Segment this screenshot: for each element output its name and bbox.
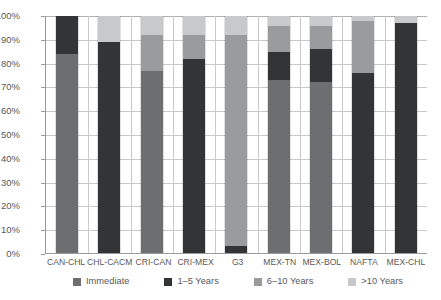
bar-slot bbox=[173, 16, 215, 253]
y-axis-tick-label: 10% bbox=[0, 225, 20, 235]
stacked-bar[interactable] bbox=[55, 16, 79, 253]
legend-label: >10 Years bbox=[361, 277, 403, 286]
bar-slot bbox=[215, 16, 257, 253]
bar-slot bbox=[46, 16, 88, 253]
legend-item[interactable]: Immediate bbox=[73, 277, 129, 286]
bar-segment[interactable] bbox=[268, 52, 290, 80]
bar-segment[interactable] bbox=[310, 26, 332, 50]
y-axis-tick-mark bbox=[41, 254, 45, 255]
legend-swatch-icon bbox=[73, 278, 81, 286]
bar-segment[interactable] bbox=[225, 16, 247, 35]
legend-swatch-icon bbox=[254, 278, 262, 286]
stacked-bar[interactable] bbox=[351, 16, 375, 253]
bar-segment[interactable] bbox=[183, 35, 205, 59]
bar-segment[interactable] bbox=[98, 42, 120, 253]
stacked-bar[interactable] bbox=[182, 16, 206, 253]
bar-segment[interactable] bbox=[268, 26, 290, 52]
x-axis-tick-label: MEX-TN bbox=[259, 257, 301, 267]
bar-segment[interactable] bbox=[141, 16, 163, 35]
legend-swatch-icon bbox=[164, 278, 172, 286]
legend-item[interactable]: 6–10 Years bbox=[254, 277, 314, 286]
bar-segment[interactable] bbox=[352, 21, 374, 73]
y-axis-tick-label: 60% bbox=[0, 106, 20, 116]
x-axis-tick-label: MEX-BOL bbox=[301, 257, 343, 267]
bar-segment[interactable] bbox=[310, 16, 332, 25]
bar-slot bbox=[385, 16, 427, 253]
y-axis-tick-label: 20% bbox=[0, 201, 20, 211]
bar-segment[interactable] bbox=[268, 16, 290, 25]
y-axis-tick-label: 30% bbox=[0, 178, 20, 188]
bar-segment[interactable] bbox=[183, 59, 205, 253]
chart-legend: Immediate1–5 Years6–10 Years>10 Years bbox=[45, 277, 427, 286]
legend-item[interactable]: >10 Years bbox=[348, 277, 403, 286]
x-axis-tick-label: MEX-CHL bbox=[385, 257, 427, 267]
bar-slot bbox=[300, 16, 342, 253]
y-axis-tick-label: 80% bbox=[0, 59, 20, 69]
bar-segment[interactable] bbox=[352, 73, 374, 253]
x-axis-tick-label: CRI-MEX bbox=[175, 257, 217, 267]
legend-item[interactable]: 1–5 Years bbox=[164, 277, 218, 286]
x-axis-tick-label: CAN-CHL bbox=[45, 257, 87, 267]
x-axis-tick-label: NAFTA bbox=[343, 257, 385, 267]
stacked-bar-chart: 0%10%20%30%40%50%60%70%80%90%100% CAN-CH… bbox=[0, 0, 441, 300]
bar-segment[interactable] bbox=[56, 16, 78, 54]
y-axis-tick-label: 0% bbox=[0, 249, 20, 259]
x-axis-tick-label: G3 bbox=[217, 257, 259, 267]
legend-swatch-icon bbox=[348, 278, 356, 286]
bar-segment[interactable] bbox=[183, 16, 205, 35]
stacked-bar[interactable] bbox=[267, 16, 291, 253]
bar-segment[interactable] bbox=[395, 23, 417, 253]
y-axis-tick-label: 40% bbox=[0, 154, 20, 164]
bars-layer bbox=[46, 16, 427, 253]
y-axis-tick-label: 50% bbox=[0, 130, 20, 140]
bar-segment[interactable] bbox=[310, 49, 332, 82]
bar-segment[interactable] bbox=[225, 35, 247, 246]
stacked-bar[interactable] bbox=[309, 16, 333, 253]
bar-slot bbox=[258, 16, 300, 253]
legend-label: Immediate bbox=[86, 277, 129, 286]
legend-label: 1–5 Years bbox=[177, 277, 218, 286]
y-axis-tick-label: 90% bbox=[0, 35, 20, 45]
x-axis-tick-label: CHL-CACM bbox=[87, 257, 132, 267]
legend-label: 6–10 Years bbox=[267, 277, 314, 286]
bar-segment[interactable] bbox=[141, 71, 163, 253]
y-axis-tick-label: 70% bbox=[0, 82, 20, 92]
stacked-bar[interactable] bbox=[140, 16, 164, 253]
bar-segment[interactable] bbox=[56, 54, 78, 253]
stacked-bar[interactable] bbox=[97, 16, 121, 253]
bar-slot bbox=[88, 16, 130, 253]
stacked-bar[interactable] bbox=[394, 16, 418, 253]
plot-area bbox=[45, 16, 427, 254]
bar-slot bbox=[342, 16, 384, 253]
y-axis-tick-label: 100% bbox=[0, 11, 20, 21]
bar-segment[interactable] bbox=[141, 35, 163, 71]
bar-segment[interactable] bbox=[225, 246, 247, 253]
x-axis-tick-label: CRI-CAN bbox=[132, 257, 174, 267]
bar-segment[interactable] bbox=[98, 16, 120, 42]
stacked-bar[interactable] bbox=[224, 16, 248, 253]
bar-slot bbox=[131, 16, 173, 253]
x-axis-labels: CAN-CHLCHL-CACMCRI-CANCRI-MEXG3MEX-TNMEX… bbox=[45, 257, 427, 267]
bar-segment[interactable] bbox=[310, 82, 332, 253]
bar-segment[interactable] bbox=[268, 80, 290, 253]
bar-segment[interactable] bbox=[395, 16, 417, 23]
